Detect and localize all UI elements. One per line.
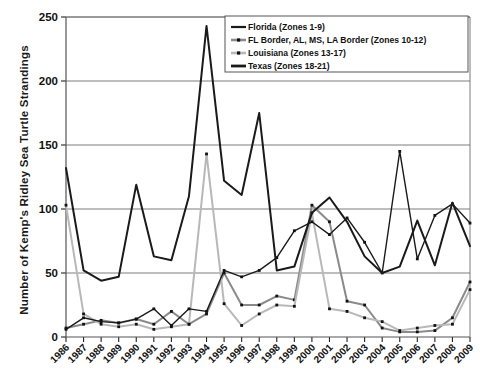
x-tick-label: 1995: [206, 341, 230, 365]
x-tick-label: 1990: [118, 341, 142, 365]
data-point-marker: [100, 320, 103, 323]
data-point-marker: [205, 310, 208, 313]
data-point-marker: [293, 305, 296, 308]
x-tick-label: 1993: [171, 341, 195, 365]
data-point-marker: [65, 204, 68, 207]
y-tick-label: 150: [39, 139, 58, 151]
x-tick-label: 1992: [153, 341, 177, 365]
x-tick-label: 2008: [434, 341, 458, 365]
y-tick-label: 50: [45, 267, 58, 279]
data-point-marker: [258, 304, 261, 307]
legend: Florida (Zones 1-9)FL Border, AL, MS, LA…: [225, 16, 468, 72]
data-point-marker: [240, 275, 243, 278]
data-point-marker: [416, 327, 419, 330]
x-tick-label: 2003: [347, 341, 371, 365]
y-tick-label: 0: [52, 331, 58, 343]
y-tick-marks: [61, 17, 66, 337]
data-point-marker: [223, 269, 226, 272]
data-point-marker: [363, 304, 366, 307]
data-point-marker: [117, 322, 120, 325]
x-tick-label: 1988: [83, 341, 107, 365]
legend-label: Texas (Zones 18-21): [248, 61, 330, 71]
plot-area: 050100150200250 198619871988198919901991…: [0, 0, 489, 389]
chart-root: Number of Kemp's Ridley Sea Turtle Stran…: [0, 0, 489, 389]
data-point-marker: [346, 300, 349, 303]
data-point-marker: [398, 329, 401, 332]
data-point-marker: [170, 324, 173, 327]
data-point-marker: [135, 323, 138, 326]
data-point-marker: [451, 316, 454, 319]
data-point-marker: [258, 269, 261, 272]
data-point-marker: [223, 302, 226, 305]
x-tick-labels: 1986198719881989199019911992199319941995…: [48, 341, 476, 365]
data-point-marker: [152, 328, 155, 331]
data-point-marker: [433, 329, 436, 332]
x-tick-label: 1986: [48, 341, 72, 365]
data-point-marker: [188, 323, 191, 326]
data-point-marker: [65, 328, 68, 331]
data-point-marker: [433, 214, 436, 217]
data-point-marker: [170, 310, 173, 313]
data-point-marker: [381, 327, 384, 330]
x-tick-label: 1994: [188, 341, 212, 365]
data-point-marker: [275, 304, 278, 307]
x-tick-label: 1989: [101, 341, 125, 365]
data-point-marker: [363, 241, 366, 244]
data-point-marker: [205, 313, 208, 316]
data-point-marker: [416, 258, 419, 261]
data-point-marker: [451, 323, 454, 326]
data-point-marker: [311, 204, 314, 207]
x-tick-label: 2000: [294, 341, 318, 365]
data-point-marker: [311, 220, 314, 223]
data-point-marker: [293, 229, 296, 232]
data-point-marker: [82, 313, 85, 316]
data-point-marker: [328, 220, 331, 223]
data-point-marker: [240, 304, 243, 307]
data-point-marker: [346, 310, 349, 313]
x-tick-label: 2007: [417, 341, 441, 365]
x-tick-label: 2009: [452, 341, 476, 365]
data-point-marker: [135, 318, 138, 321]
data-point-marker: [275, 295, 278, 298]
data-point-marker: [469, 288, 472, 291]
data-point-marker: [328, 307, 331, 310]
data-point-marker: [433, 324, 436, 327]
data-point-marker: [240, 324, 243, 327]
y-tick-label: 250: [39, 11, 58, 23]
line-chart-svg: 050100150200250 198619871988198919901991…: [0, 0, 489, 389]
y-tick-labels: 050100150200250: [39, 11, 58, 343]
x-tick-marks: [66, 337, 470, 342]
data-point-marker: [381, 320, 384, 323]
x-tick-label: 1997: [241, 341, 265, 365]
x-tick-label: 1991: [136, 341, 160, 365]
data-point-marker: [82, 316, 85, 319]
data-point-marker: [117, 325, 120, 328]
data-point-marker: [188, 307, 191, 310]
legend-item[interactable]: FL Border, AL, MS, LA Border (Zones 10-1…: [231, 35, 426, 45]
x-tick-label: 1996: [224, 341, 248, 365]
data-point-marker: [328, 233, 331, 236]
data-point-marker: [416, 330, 419, 333]
legend-item[interactable]: Louisiana (Zones 13-17): [231, 48, 346, 58]
series-line: [65, 204, 472, 334]
x-tick-label: 1998: [259, 341, 283, 365]
data-point-marker: [152, 323, 155, 326]
x-tick-label: 2005: [382, 341, 406, 365]
legend-label: FL Border, AL, MS, LA Border (Zones 10-1…: [248, 35, 426, 45]
data-point-marker: [82, 323, 85, 326]
legend-label: Louisiana (Zones 13-17): [248, 48, 346, 58]
data-point-marker: [398, 150, 401, 153]
data-point-marker: [205, 153, 208, 156]
data-point-marker: [152, 307, 155, 310]
x-tick-label: 2002: [329, 341, 353, 365]
x-tick-label: 1999: [276, 341, 300, 365]
x-tick-label: 1987: [65, 341, 89, 365]
data-point-marker: [469, 222, 472, 225]
legend-label: Florida (Zones 1-9): [248, 22, 325, 32]
data-point-marker: [100, 323, 103, 326]
x-tick-label: 2006: [399, 341, 423, 365]
data-point-marker: [363, 316, 366, 319]
data-point-marker: [258, 313, 261, 316]
x-tick-label: 2004: [364, 341, 388, 365]
y-tick-label: 100: [39, 203, 58, 215]
